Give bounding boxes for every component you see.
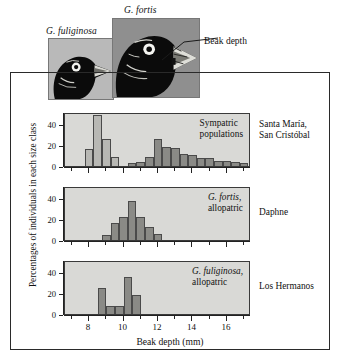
histogram-bar <box>145 157 154 166</box>
y-tick-label-1-0: 0 <box>38 236 56 246</box>
x-tick-major-2-16 <box>226 316 227 321</box>
x-tick-minor-1-13 <box>174 242 175 245</box>
y-tick-label-0-40: 40 <box>38 120 56 130</box>
y-axis-line-0 <box>63 113 64 167</box>
histogram-bar <box>171 148 180 166</box>
histogram-panel-fuliginosa-allopatric: G. fuliginosa, allopatric <box>64 261 250 315</box>
x-tick-major-2-8 <box>88 316 89 321</box>
histogram-bar <box>85 149 94 166</box>
x-tick-minor-0-13 <box>174 168 175 171</box>
panel-note-fortis-allopatric: G. fortis, allopatric <box>208 192 243 214</box>
y-tick-label-1-20: 20 <box>38 215 56 225</box>
histogram-bar <box>124 277 133 314</box>
x-tick-major-1-12 <box>157 242 158 247</box>
histogram-bar <box>180 154 189 166</box>
histogram-panel-sympatric: Sympatric populations <box>64 113 250 167</box>
histogram-bar <box>162 147 171 166</box>
x-tick-minor-1-15 <box>209 242 210 245</box>
x-tick-label-12: 12 <box>147 322 167 332</box>
x-tick-label-14: 14 <box>181 322 201 332</box>
x-tick-minor-2-9 <box>105 316 106 319</box>
y-tick-2-0 <box>59 315 63 316</box>
x-tick-minor-1-7 <box>71 242 72 245</box>
x-tick-minor-0-17 <box>243 168 244 171</box>
histogram-bar <box>231 162 240 166</box>
island-line-1: Los Hermanos <box>259 281 314 292</box>
y-tick-0-0 <box>59 167 63 168</box>
histogram-bar <box>93 115 102 166</box>
y-axis-line-2 <box>63 261 64 315</box>
x-tick-major-2-14 <box>191 316 192 321</box>
x-tick-minor-1-11 <box>140 242 141 245</box>
panel-note-line-1: G. fortis, <box>208 192 243 203</box>
histogram-bar <box>223 161 232 166</box>
island-line-2: San Cristóbal <box>259 130 310 141</box>
histogram-bar <box>240 163 249 166</box>
finch-beak-depth-figure: G. fuliginosa G. fortis <box>0 0 340 362</box>
x-tick-minor-1-17 <box>243 242 244 245</box>
x-tick-minor-0-9 <box>105 168 106 171</box>
panel-note-line-1: G. fuliginosa, <box>192 266 243 277</box>
y-tick-label-0-20: 20 <box>38 141 56 151</box>
species-label-fuliginosa: G. fuliginosa <box>46 26 97 36</box>
x-axis-title: Beak depth (mm) <box>0 336 340 347</box>
y-tick-0-20 <box>59 146 63 147</box>
x-tick-major-2-12 <box>157 316 158 321</box>
histogram-bar <box>197 158 206 166</box>
histogram-bar <box>128 201 137 240</box>
y-tick-label-2-0: 0 <box>38 310 56 320</box>
y-tick-2-40 <box>59 273 63 274</box>
x-tick-minor-0-11 <box>140 168 141 171</box>
histogram-bar <box>128 163 137 166</box>
panel-note-line-2: allopatric <box>208 203 243 214</box>
island-label-daphne: Daphne <box>259 207 288 218</box>
y-tick-1-40 <box>59 199 63 200</box>
panel-note-line-2: allopatric <box>192 277 243 288</box>
x-tick-major-0-8 <box>88 168 89 173</box>
y-axis-title: Percentages of individuals in each size … <box>28 95 38 315</box>
island-label-santa-maria-san-cristobal: Santa María, San Cristóbal <box>259 119 310 141</box>
y-tick-label-2-20: 20 <box>38 289 56 299</box>
x-tick-major-0-12 <box>157 168 158 173</box>
x-tick-minor-2-13 <box>174 316 175 319</box>
histogram-bar <box>111 223 120 240</box>
y-axis-line-1 <box>63 187 64 241</box>
island-line-1: Santa María, <box>259 119 310 130</box>
panel-note-line-2: populations <box>200 129 243 140</box>
y-tick-1-20 <box>59 220 63 221</box>
y-tick-label-1-40: 40 <box>38 194 56 204</box>
x-tick-major-0-14 <box>191 168 192 173</box>
y-tick-1-0 <box>59 241 63 242</box>
histogram-bar <box>132 295 141 314</box>
histogram-bar <box>111 157 120 166</box>
x-tick-major-2-10 <box>123 316 124 321</box>
x-tick-major-1-8 <box>88 242 89 247</box>
histogram-bar <box>102 139 111 166</box>
histogram-bar <box>154 139 163 166</box>
histogram-bar <box>214 161 223 166</box>
x-tick-major-0-10 <box>123 168 124 173</box>
y-tick-2-20 <box>59 294 63 295</box>
x-tick-major-1-10 <box>123 242 124 247</box>
x-tick-minor-2-11 <box>140 316 141 319</box>
histogram-bar <box>106 306 115 314</box>
histogram-bar <box>154 234 163 240</box>
histogram-bar <box>102 235 111 240</box>
x-tick-minor-0-15 <box>209 168 210 171</box>
histogram-bar <box>145 227 154 241</box>
panel-note-fuliginosa-allopatric: G. fuliginosa, allopatric <box>192 266 243 288</box>
histogram-bar <box>115 306 124 314</box>
x-tick-minor-2-17 <box>243 316 244 319</box>
island-line-1: Daphne <box>259 207 288 218</box>
histogram-bar <box>119 217 128 240</box>
x-tick-label-16: 16 <box>216 322 236 332</box>
y-tick-label-0-0: 0 <box>38 162 56 172</box>
beak-depth-callout-label: Beak depth <box>204 36 247 46</box>
histogram-panel-fortis-allopatric: G. fortis, allopatric <box>64 187 250 241</box>
x-tick-minor-2-7 <box>71 316 72 319</box>
x-tick-label-10: 10 <box>113 322 133 332</box>
histogram-bar <box>205 158 214 166</box>
histogram-bar <box>136 217 145 240</box>
x-tick-minor-0-7 <box>71 168 72 171</box>
histogram-bar <box>98 288 107 314</box>
